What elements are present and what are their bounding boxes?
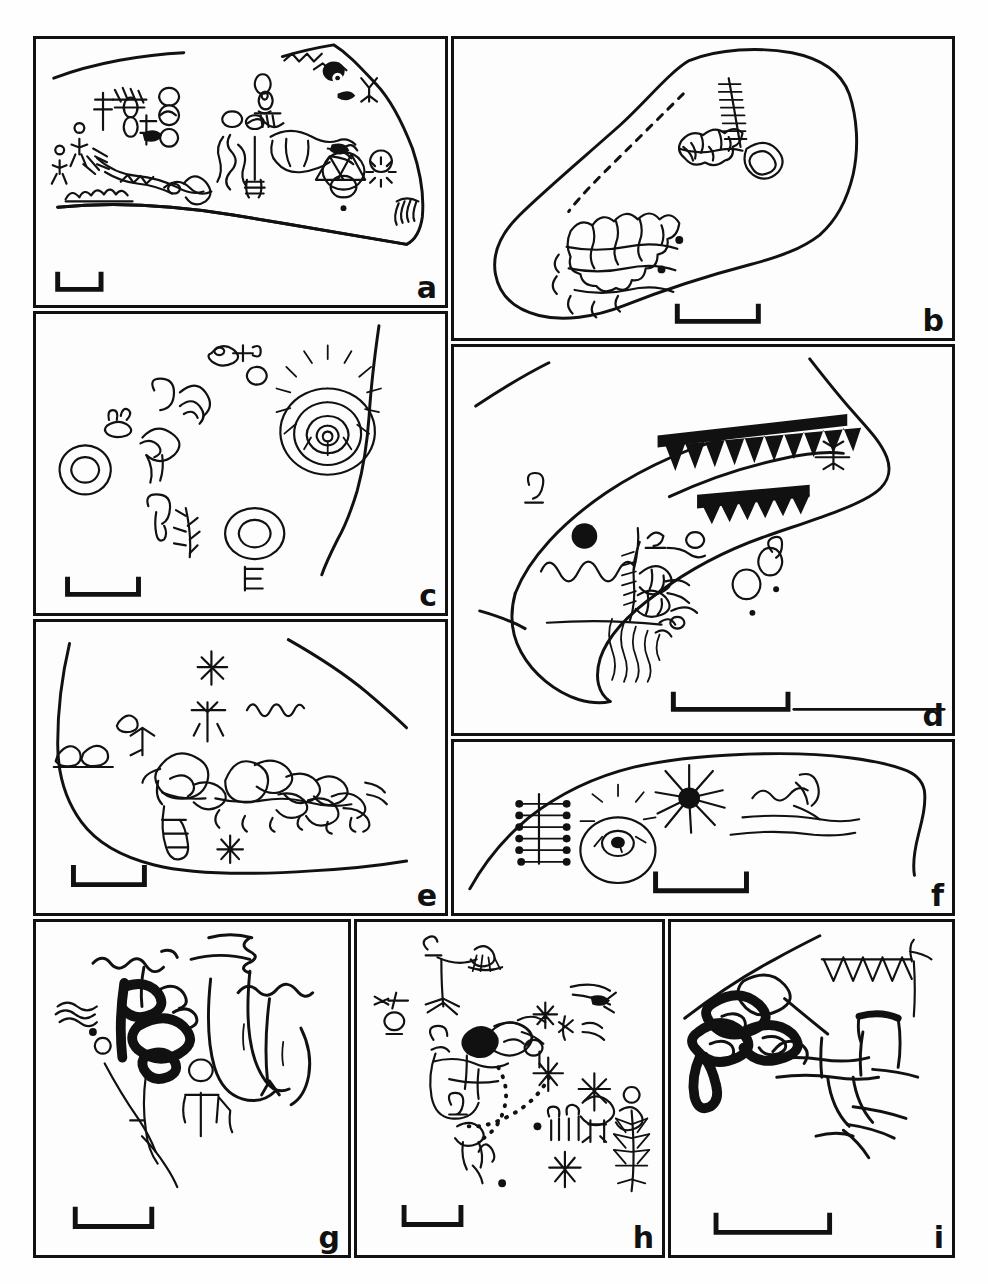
panel-g-drawing (36, 922, 348, 1255)
panel-c: c (33, 311, 448, 616)
panel-f-drawing (454, 742, 952, 913)
panel-a-drawing (36, 39, 445, 305)
panel-e: e (33, 619, 448, 916)
panel-h-drawing (357, 922, 662, 1255)
panel-e-drawing (36, 622, 445, 913)
figure-plate: a b (33, 36, 955, 1258)
panel-label-c: c (419, 581, 437, 611)
panel-f: f (451, 739, 955, 916)
panel-label-b: b (923, 306, 944, 336)
panel-label-g: g (319, 1223, 340, 1253)
panel-c-drawing (36, 314, 445, 613)
panel-g: g (33, 919, 351, 1258)
panel-h: h (354, 919, 665, 1258)
panel-b-drawing (454, 39, 952, 338)
panel-label-h: h (633, 1223, 654, 1253)
scale-bar (677, 304, 758, 322)
panel-label-i: i (934, 1223, 944, 1253)
scale-bar (73, 865, 144, 885)
scale-bar (656, 871, 747, 890)
figure-caption (0, 1262, 988, 1282)
panel-a: a (33, 36, 448, 308)
scale-bar (673, 692, 788, 710)
panel-label-d: d (923, 701, 944, 731)
scale-bar (68, 577, 139, 595)
panel-b: b (451, 36, 955, 341)
scale-bar (716, 1213, 830, 1233)
scale-bar (58, 272, 101, 290)
panel-label-e: e (417, 881, 437, 911)
panel-label-f: f (931, 881, 944, 911)
panel-label-a: a (417, 273, 437, 303)
panel-i: i (668, 919, 955, 1258)
scale-bar (404, 1205, 461, 1225)
panel-d-drawing (454, 347, 952, 733)
scale-bar (75, 1207, 152, 1227)
panel-d: d (451, 344, 955, 736)
panel-i-drawing (671, 922, 952, 1255)
